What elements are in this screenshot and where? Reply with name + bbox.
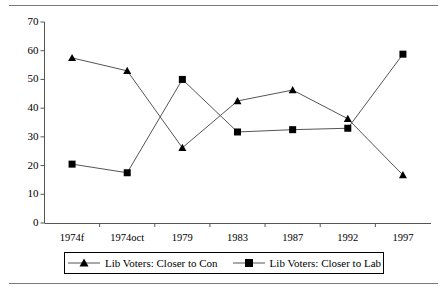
- y-tick-label: 30: [17, 131, 39, 142]
- chart-figure: 010203040506070 1974f1974oct197919831987…: [0, 0, 447, 295]
- y-tick-label: 20: [17, 160, 39, 171]
- triangle-marker-icon: [344, 115, 352, 122]
- x-tick-label: 1979: [152, 232, 212, 243]
- x-tick-label: 1983: [208, 232, 268, 243]
- square-marker-icon: [399, 51, 406, 58]
- triangle-marker-icon: [68, 54, 76, 61]
- legend-item-closer-to-lab: Lib Voters: Closer to Lab: [232, 257, 381, 269]
- square-marker-icon: [232, 257, 266, 269]
- chart-series-lines: [72, 54, 403, 175]
- square-marker-icon: [289, 126, 296, 133]
- y-tick-label: 60: [17, 45, 39, 56]
- chart-svg: [0, 0, 447, 295]
- y-tick-label: 70: [17, 16, 39, 27]
- y-axis-ticks: [41, 22, 45, 223]
- chart-series-markers: [68, 51, 407, 179]
- square-marker-icon: [179, 76, 186, 83]
- series-line-1: [72, 54, 403, 173]
- x-tick-label: 1974oct: [97, 232, 157, 243]
- legend-label-closer-to-con: Lib Voters: Closer to Con: [105, 257, 218, 269]
- square-marker-icon: [344, 125, 351, 132]
- y-tick-label: 40: [17, 102, 39, 113]
- chart-axes: [45, 22, 432, 224]
- x-tick-label: 1997: [373, 232, 433, 243]
- x-tick-label: 1974f: [42, 232, 102, 243]
- square-marker-icon: [69, 161, 76, 168]
- series-line-0: [72, 58, 403, 175]
- legend-label-closer-to-lab: Lib Voters: Closer to Lab: [270, 257, 381, 269]
- y-tick-label: 0: [17, 217, 39, 228]
- y-tick-label: 10: [17, 188, 39, 199]
- x-tick-label: 1992: [318, 232, 378, 243]
- triangle-marker-icon: [289, 86, 297, 93]
- square-marker-icon: [124, 169, 131, 176]
- legend-item-closer-to-con: Lib Voters: Closer to Con: [67, 257, 218, 269]
- line-chart-plot-area: [0, 0, 447, 295]
- chart-legend: Lib Voters: Closer to Con Lib Voters: Cl…: [64, 252, 384, 274]
- y-tick-label: 50: [17, 73, 39, 84]
- x-tick-label: 1987: [263, 232, 323, 243]
- triangle-marker-icon: [67, 257, 101, 269]
- square-marker-icon: [234, 128, 241, 135]
